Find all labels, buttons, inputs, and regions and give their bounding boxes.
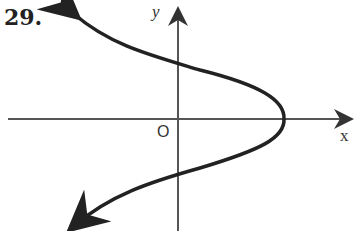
graph xyxy=(0,0,357,231)
y-axis-label: y xyxy=(152,2,160,22)
origin-label: O xyxy=(157,123,169,141)
x-axis-label: x xyxy=(340,126,349,146)
